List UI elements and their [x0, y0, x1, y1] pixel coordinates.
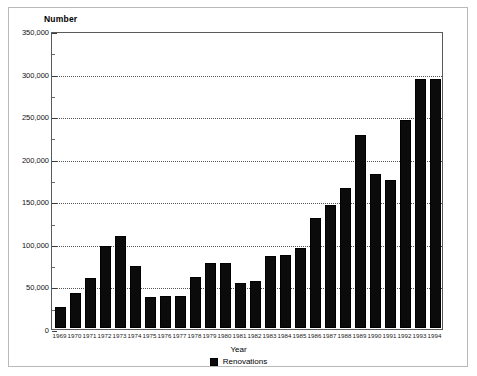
- y-axis-tick-label: 300,000: [22, 70, 49, 79]
- x-axis-tick-label: 1974: [128, 332, 142, 339]
- bar-1991[interactable]: [385, 180, 396, 328]
- bar-1993[interactable]: [415, 79, 426, 328]
- plot-area: [51, 32, 443, 330]
- x-axis-tick-label: 1978: [188, 332, 202, 339]
- bar-slot: [113, 32, 128, 328]
- x-axis-title: Year: [0, 345, 477, 354]
- chart-page: Number 350,000300,000250,000200,000150,0…: [0, 0, 477, 376]
- bar-slot: [68, 32, 83, 328]
- bar-slot: [383, 32, 398, 328]
- chart-legend: Renovations: [0, 357, 477, 366]
- bar-slot: [323, 32, 338, 328]
- bar-1980[interactable]: [220, 263, 231, 328]
- x-axis-tick-label: 1972: [98, 332, 112, 339]
- x-axis-tick-labels: 1969197019711972197319741975197619771978…: [51, 332, 443, 344]
- y-axis-tick-label: 250,000: [22, 113, 49, 122]
- bar-slot: [158, 32, 173, 328]
- bar-1984[interactable]: [280, 255, 291, 328]
- bar-1972[interactable]: [100, 246, 111, 328]
- bar-1971[interactable]: [85, 278, 96, 328]
- y-axis-tick-label: 200,000: [22, 155, 49, 164]
- bar-slot: [293, 32, 308, 328]
- x-axis-tick-label: 1969: [53, 332, 67, 339]
- bar-slot: [143, 32, 158, 328]
- bar-slot: [188, 32, 203, 328]
- bar-1992[interactable]: [400, 120, 411, 328]
- x-axis-tick-label: 1989: [353, 332, 367, 339]
- x-axis-tick-label: 1975: [143, 332, 157, 339]
- x-axis-tick-label: 1992: [398, 332, 412, 339]
- x-axis-tick-label: 1979: [203, 332, 217, 339]
- y-axis-tick-label: 0: [45, 326, 49, 335]
- bar-1976[interactable]: [160, 296, 171, 328]
- bar-1983[interactable]: [265, 256, 276, 328]
- x-axis-tick-label: 1994: [428, 332, 442, 339]
- bar-1979[interactable]: [205, 263, 216, 328]
- x-axis-tick-label: 1991: [383, 332, 397, 339]
- bar-1986[interactable]: [310, 218, 321, 328]
- bar-slot: [248, 32, 263, 328]
- bar-1969[interactable]: [55, 307, 66, 328]
- bar-1982[interactable]: [250, 281, 261, 328]
- bar-slot: [278, 32, 293, 328]
- bar-slot: [353, 32, 368, 328]
- y-axis-tick-labels: 350,000300,000250,000200,000150,000100,0…: [6, 32, 49, 330]
- x-axis-tick-label: 1988: [338, 332, 352, 339]
- bar-slot: [398, 32, 413, 328]
- bar-slot: [233, 32, 248, 328]
- x-axis-tick-label: 1976: [158, 332, 172, 339]
- bar-slot: [413, 32, 428, 328]
- x-axis-tick-label: 1980: [218, 332, 232, 339]
- x-axis-tick-label: 1985: [293, 332, 307, 339]
- bar-slot: [83, 32, 98, 328]
- bar-slot: [203, 32, 218, 328]
- bar-slot: [263, 32, 278, 328]
- y-axis-tick-label: 350,000: [22, 28, 49, 37]
- bar-slot: [98, 32, 113, 328]
- legend-label-renovations: Renovations: [223, 357, 267, 366]
- bar-1985[interactable]: [295, 248, 306, 328]
- x-axis-tick-label: 1973: [113, 332, 127, 339]
- bar-1977[interactable]: [175, 296, 186, 328]
- bar-1987[interactable]: [325, 205, 336, 328]
- x-axis-tick-label: 1990: [368, 332, 382, 339]
- x-axis-tick-label: 1993: [413, 332, 427, 339]
- x-axis-tick-label: 1986: [308, 332, 322, 339]
- x-axis-tick-label: 1982: [248, 332, 262, 339]
- bar-slot: [128, 32, 143, 328]
- bars-layer: [53, 34, 441, 328]
- bar-1981[interactable]: [235, 283, 246, 328]
- bar-1988[interactable]: [340, 188, 351, 328]
- x-axis-tick-label: 1984: [278, 332, 292, 339]
- bar-1974[interactable]: [130, 266, 141, 328]
- bar-1970[interactable]: [70, 293, 81, 328]
- bar-slot: [428, 32, 443, 328]
- y-axis-tick-label: 100,000: [22, 240, 49, 249]
- bar-1990[interactable]: [370, 174, 381, 328]
- x-axis-tick-label: 1977: [173, 332, 187, 339]
- bar-slot: [338, 32, 353, 328]
- bar-slot: [368, 32, 383, 328]
- bar-1994[interactable]: [430, 79, 441, 328]
- x-axis-tick-label: 1971: [83, 332, 97, 339]
- x-axis-tick-label: 1981: [233, 332, 247, 339]
- bar-slot: [173, 32, 188, 328]
- bar-slot: [308, 32, 323, 328]
- bar-1975[interactable]: [145, 297, 156, 328]
- y-axis-tick-label: 150,000: [22, 198, 49, 207]
- x-axis-tick-label: 1983: [263, 332, 277, 339]
- bar-1973[interactable]: [115, 236, 126, 328]
- bar-slot: [53, 32, 68, 328]
- legend-swatch-icon: [210, 358, 218, 366]
- bar-slot: [218, 32, 233, 328]
- bar-1978[interactable]: [190, 277, 201, 328]
- x-axis-tick-label: 1987: [323, 332, 337, 339]
- y-axis-title: Number: [44, 14, 77, 24]
- x-axis-tick-label: 1970: [68, 332, 82, 339]
- bar-1989[interactable]: [355, 135, 366, 328]
- y-axis-tick-label: 50,000: [26, 283, 49, 292]
